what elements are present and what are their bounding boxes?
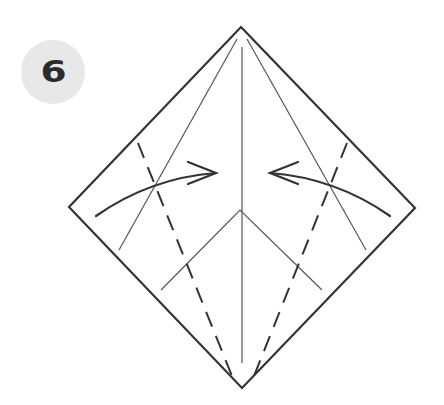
right-diagonal-crease bbox=[247, 39, 366, 250]
origami-fold-diagram bbox=[0, 0, 444, 405]
right-fold-arrow-icon bbox=[270, 162, 390, 216]
left-fold-arrow-icon bbox=[96, 162, 216, 216]
left-diagonal-crease bbox=[119, 39, 237, 250]
